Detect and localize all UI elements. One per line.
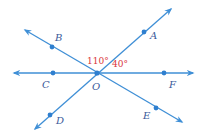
point-label-E: E xyxy=(142,110,151,121)
point-label-F: F xyxy=(168,79,177,90)
point-F xyxy=(162,71,167,76)
point-label-A: A xyxy=(149,30,157,41)
point-E xyxy=(154,106,159,111)
labels-group: ABCOFDE110°40° xyxy=(42,30,177,126)
point-A xyxy=(142,30,147,35)
point-B xyxy=(50,45,55,50)
point-D xyxy=(48,113,53,118)
point-label-O: O xyxy=(92,81,100,92)
lines-group xyxy=(14,9,193,129)
point-label-D: D xyxy=(55,115,64,126)
intersecting-lines-diagram: ABCOFDE110°40° xyxy=(0,0,204,134)
angle-BOA-label: 110° xyxy=(87,56,109,66)
angle-AOF-label: 40° xyxy=(112,59,128,69)
point-O xyxy=(94,70,99,75)
point-label-B: B xyxy=(54,32,62,43)
line-BE xyxy=(25,30,182,122)
point-label-C: C xyxy=(42,79,50,90)
line-AD xyxy=(35,9,171,129)
point-C xyxy=(51,71,56,76)
